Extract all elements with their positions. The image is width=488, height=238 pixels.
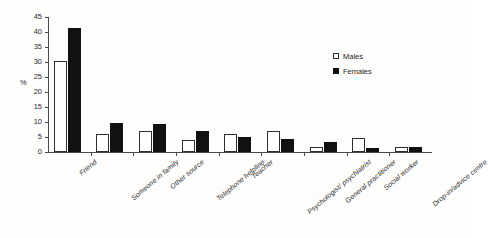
bar-females xyxy=(153,124,166,152)
bar-females xyxy=(196,131,209,152)
x-axis-tick-mark xyxy=(261,152,262,156)
bar-females xyxy=(366,148,379,152)
bar-group xyxy=(261,17,304,152)
y-axis-tick: 40 xyxy=(0,32,48,33)
y-axis-tick-label: 5 xyxy=(38,132,42,141)
bar-females xyxy=(238,137,251,152)
y-axis-tick-label: 25 xyxy=(34,72,42,81)
y-axis-tick-label: 35 xyxy=(34,42,42,51)
x-axis-tick-mark xyxy=(133,152,134,156)
bar-females xyxy=(68,28,81,153)
x-axis-line xyxy=(48,152,432,153)
bar-group xyxy=(347,17,390,152)
y-axis-tick-label: 15 xyxy=(34,102,42,111)
bar-males xyxy=(395,147,408,152)
y-axis-tick: 45 xyxy=(0,17,48,18)
x-axis-tick-mark xyxy=(389,152,390,156)
y-axis-tick-label: 0 xyxy=(38,147,42,156)
filled-square-icon xyxy=(333,68,339,74)
x-axis-tick-mark xyxy=(347,152,348,156)
y-axis-tick: 35 xyxy=(0,47,48,48)
legend-item-label: Females xyxy=(343,67,372,76)
x-axis-category-label: Drop-in/advice centre xyxy=(431,158,488,208)
x-axis-category-label: Friend xyxy=(78,158,99,177)
bar-males xyxy=(224,134,237,152)
bar-males xyxy=(310,147,323,152)
y-axis-tick: 30 xyxy=(0,62,48,63)
y-axis-tick-label: 40 xyxy=(34,27,42,36)
x-axis-tick-mark xyxy=(91,152,92,156)
y-axis-tick-label: 20 xyxy=(34,87,42,96)
y-axis-tick: 20 xyxy=(0,92,48,93)
y-axis-tick-label: 45 xyxy=(34,12,42,21)
y-axis-tick-label: 30 xyxy=(34,57,42,66)
plot-area xyxy=(48,17,432,152)
y-axis-tick-label: 10 xyxy=(34,117,42,126)
y-axis-tick-mark xyxy=(45,152,48,153)
bar-females xyxy=(281,139,294,153)
x-axis-tick-mark xyxy=(304,152,305,156)
x-axis-tick-mark xyxy=(219,152,220,156)
bar-females xyxy=(409,147,422,152)
x-axis-category-label: Telephone helpline xyxy=(215,158,266,203)
legend: MalesFemales xyxy=(333,50,372,80)
y-axis-tick: 15 xyxy=(0,107,48,108)
bar-females xyxy=(324,142,337,152)
bar-males xyxy=(139,131,152,152)
bar-males xyxy=(182,140,195,152)
bar-females xyxy=(110,123,123,152)
bar-group xyxy=(133,17,176,152)
bar-males xyxy=(54,61,67,153)
bar-group xyxy=(389,17,432,152)
bar-males xyxy=(96,134,109,152)
y-axis-tick: 10 xyxy=(0,122,48,123)
y-axis-tick: 0 xyxy=(0,152,48,153)
bar-group xyxy=(91,17,134,152)
bar-group xyxy=(48,17,91,152)
bar-males xyxy=(267,131,280,152)
legend-item: Males xyxy=(333,50,372,62)
legend-item-label: Males xyxy=(343,52,363,61)
legend-item: Females xyxy=(333,65,372,77)
y-axis-tick: 25 xyxy=(0,77,48,78)
y-axis-title: % xyxy=(20,78,27,87)
bar-group xyxy=(219,17,262,152)
bar-group xyxy=(304,17,347,152)
open-square-icon xyxy=(333,53,339,59)
bar-group xyxy=(176,17,219,152)
bar-males xyxy=(352,138,365,152)
x-axis-tick-mark xyxy=(176,152,177,156)
y-axis-tick: 5 xyxy=(0,137,48,138)
